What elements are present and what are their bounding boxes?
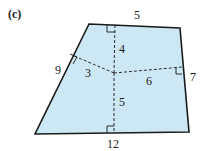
side-label-left: 9: [55, 63, 61, 77]
side-label-bottom: 12: [107, 137, 119, 151]
side-label-right: 7: [190, 70, 196, 84]
quadrilateral-diagram: (c) 5 9 7 12 4 3 6 5: [0, 0, 202, 151]
side-label-top: 5: [134, 8, 140, 22]
quadrilateral-shape: [35, 24, 189, 134]
perp-label-right: 6: [146, 74, 152, 88]
perp-label-left: 3: [85, 66, 91, 80]
part-label: (c): [8, 7, 21, 21]
perp-label-bottom: 5: [119, 95, 125, 109]
perp-label-top: 4: [119, 42, 125, 56]
